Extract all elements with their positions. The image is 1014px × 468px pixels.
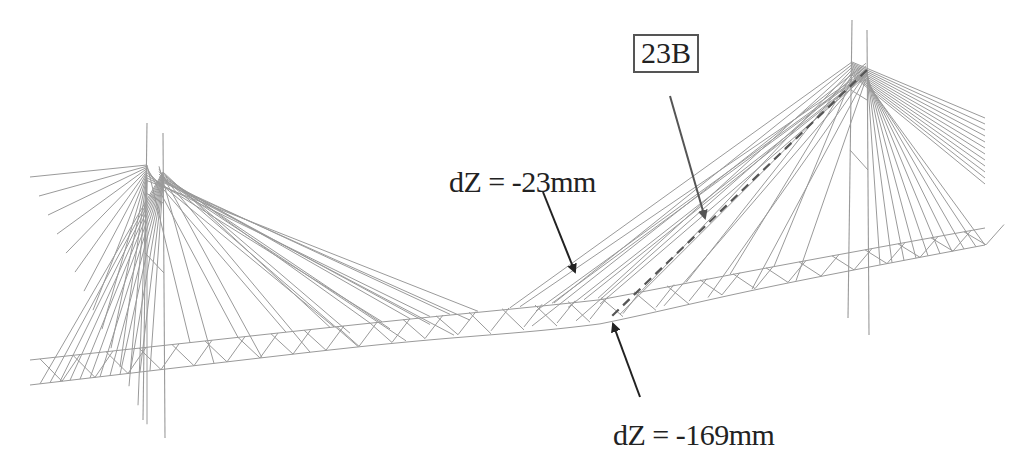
deflection-label-bottom: dZ = -169mm <box>613 420 774 450</box>
arrow-23b <box>670 96 705 218</box>
bridge-diagram <box>0 0 1014 468</box>
arrow-dz-bottom <box>613 324 640 397</box>
cable-id-label: 23B <box>633 34 699 73</box>
cable-23b-dashed <box>610 70 867 318</box>
arrow-dz-top <box>543 192 575 272</box>
bridge-wireframe <box>30 20 1004 438</box>
deflection-label-top: dZ = -23mm <box>449 167 596 197</box>
